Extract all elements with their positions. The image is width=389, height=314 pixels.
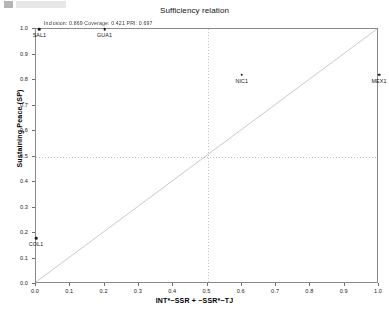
x-axis-tick bbox=[275, 283, 276, 286]
y-axis-tick bbox=[32, 283, 35, 284]
y-axis-tick bbox=[32, 156, 35, 157]
x-axis-tick bbox=[69, 283, 70, 286]
y-axis-tick-label: 0.4 bbox=[20, 178, 28, 184]
fit-measures-text: Inclusion: 0.869 Coverage: 0.421 PRI: 0.… bbox=[44, 20, 153, 26]
x-axis-tick bbox=[378, 283, 379, 286]
y-axis-tick-label: 0.7 bbox=[20, 102, 28, 108]
x-axis-tick-label: 0.9 bbox=[340, 288, 348, 294]
gridline-vertical bbox=[208, 29, 209, 282]
y-axis-tick bbox=[32, 105, 35, 106]
x-axis-title: INT*~SSR + ~SSR*~TJ bbox=[0, 297, 389, 304]
diagonal-reference-line bbox=[36, 29, 377, 282]
data-point[interactable]: SAL1 bbox=[38, 28, 41, 31]
x-axis-tick bbox=[172, 283, 173, 286]
data-point-label: MEX1 bbox=[371, 78, 386, 84]
x-axis-tick bbox=[241, 283, 242, 286]
data-point-label: GUA1 bbox=[97, 32, 112, 38]
x-axis-tick-label: 1.0 bbox=[374, 288, 382, 294]
y-axis-tick-label: 0.6 bbox=[20, 127, 28, 133]
data-point[interactable]: COL1 bbox=[35, 237, 38, 240]
y-axis-tick bbox=[32, 258, 35, 259]
data-point-marker bbox=[103, 28, 106, 31]
y-axis-tick-label: 0.2 bbox=[20, 229, 28, 235]
data-point-marker bbox=[378, 74, 381, 77]
y-axis-tick-label: 1.0 bbox=[20, 25, 28, 31]
y-axis-tick bbox=[32, 54, 35, 55]
x-axis-tick bbox=[309, 283, 310, 286]
y-axis-tick-label: 0.8 bbox=[20, 76, 28, 82]
data-point-label: SAL1 bbox=[33, 32, 47, 38]
x-axis-tick-label: 0.3 bbox=[134, 288, 142, 294]
y-axis-tick-label: 0.1 bbox=[20, 255, 28, 261]
x-axis-tick-label: 0.2 bbox=[100, 288, 108, 294]
x-axis-tick-label: 0.5 bbox=[202, 288, 210, 294]
x-axis-tick bbox=[138, 283, 139, 286]
x-axis-tick bbox=[104, 283, 105, 286]
y-axis-tick-label: 0.3 bbox=[20, 204, 28, 210]
data-point[interactable]: GUA1 bbox=[103, 28, 106, 31]
y-axis-tick bbox=[32, 232, 35, 233]
x-axis-tick bbox=[207, 283, 208, 286]
plot-area: SAL1GUA1NIC1MEX1COL1 bbox=[35, 28, 378, 283]
x-axis-tick-label: 0.6 bbox=[237, 288, 245, 294]
data-point-label: COL1 bbox=[29, 241, 43, 247]
y-axis-tick bbox=[32, 181, 35, 182]
data-point-marker bbox=[241, 74, 244, 77]
x-axis-tick bbox=[35, 283, 36, 286]
gridline-horizontal bbox=[36, 157, 377, 158]
data-point[interactable]: MEX1 bbox=[378, 74, 381, 77]
y-axis-tick bbox=[32, 79, 35, 80]
data-point-marker bbox=[38, 28, 41, 31]
x-axis-tick-label: 0.1 bbox=[65, 288, 73, 294]
y-axis-tick-label: 0.5 bbox=[20, 153, 28, 159]
data-point-label: NIC1 bbox=[235, 78, 248, 84]
data-point-marker bbox=[35, 237, 38, 240]
y-axis-tick-label: 0.9 bbox=[20, 51, 28, 57]
y-axis-tick bbox=[32, 130, 35, 131]
chart-title: Sufficiency relation bbox=[0, 6, 389, 15]
data-point[interactable]: NIC1 bbox=[241, 74, 244, 77]
x-axis-tick-label: 0.4 bbox=[168, 288, 176, 294]
x-axis-tick bbox=[344, 283, 345, 286]
x-axis-tick-label: 0.7 bbox=[271, 288, 279, 294]
y-axis-tick-label: 0.0 bbox=[20, 280, 28, 286]
x-axis-tick-label: 0.0 bbox=[31, 288, 39, 294]
y-axis-tick bbox=[32, 207, 35, 208]
y-axis-tick bbox=[32, 28, 35, 29]
x-axis-tick-label: 0.8 bbox=[305, 288, 313, 294]
